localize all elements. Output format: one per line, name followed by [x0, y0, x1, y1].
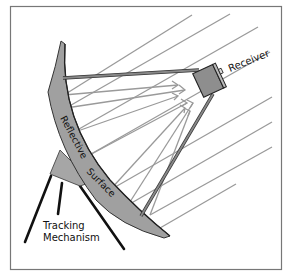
- tracking-label-line2: Mechanism: [43, 232, 100, 243]
- tracking-label-line1: Tracking: [42, 220, 85, 231]
- solar-dish-diagram: Receiver Reflective Surface Tracking Mec…: [0, 0, 290, 275]
